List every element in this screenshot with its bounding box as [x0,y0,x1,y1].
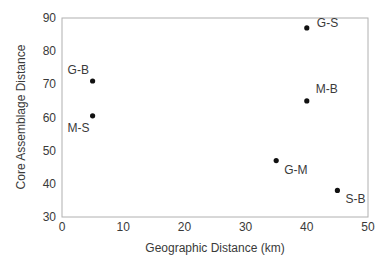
point-label: M-S [68,121,90,135]
point-label: G-S [317,16,338,30]
x-tick-label: 0 [59,220,66,234]
x-tick-labels: 01020304050 [59,220,375,234]
y-tick-label: 40 [43,177,57,191]
x-tick-label: 20 [178,220,192,234]
x-tick-label: 40 [300,220,314,234]
point-label: G-B [68,63,89,77]
data-point [90,113,95,118]
y-tick-label: 30 [43,210,57,224]
scatter-chart: 30405060708090 01020304050 G-BM-SG-SM-BG… [0,0,387,267]
x-tick-label: 50 [361,220,375,234]
y-tick-labels: 30405060708090 [43,11,57,224]
y-tick-label: 90 [43,11,57,25]
data-point [304,98,309,103]
x-tick-label: 10 [117,220,131,234]
x-tick-label: 30 [239,220,253,234]
data-point [304,25,309,30]
y-tick-label: 50 [43,144,57,158]
data-point [90,78,95,83]
point-label: M-B [316,82,338,96]
y-tick-label: 80 [43,44,57,58]
x-axis-label: Geographic Distance (km) [145,241,284,255]
data-point [274,158,279,163]
data-points: G-BM-SG-SM-BG-MS-B [68,16,366,207]
plot-frame [62,18,368,217]
point-label: S-B [345,192,365,206]
data-point [335,188,340,193]
y-axis-label: Core Assemblage Distance [14,44,28,189]
y-tick-label: 60 [43,111,57,125]
y-tick-label: 70 [43,77,57,91]
point-label: G-M [284,163,307,177]
